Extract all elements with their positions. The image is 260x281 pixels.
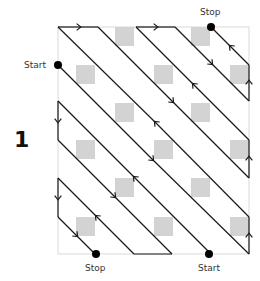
stop-dot-bottom [92,250,100,258]
square [191,27,210,46]
scan-path-diagram: 1 [0,0,260,281]
square [76,65,95,84]
square [115,27,134,46]
square [191,103,210,122]
start-dot-bottom [205,250,213,258]
square [154,65,173,84]
start-label-left: Start [24,60,46,70]
gray-squares [76,27,249,236]
square [154,140,173,159]
square [230,217,249,236]
stop-label-top: Stop [200,7,221,17]
figure-number: 1 [14,127,29,152]
stop-label-bottom: Stop [85,263,106,273]
square [191,178,210,197]
square [115,178,134,197]
square [76,217,95,236]
start-dot-left [54,61,62,69]
square [230,140,249,159]
square [76,140,95,159]
square [230,65,249,84]
square [154,217,173,236]
stop-dot-top [207,23,215,31]
square [115,103,134,122]
start-label-bottom: Start [198,263,220,273]
